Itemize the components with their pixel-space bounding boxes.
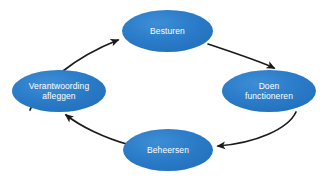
cycle-diagram-canvas [0, 0, 326, 179]
arrow-besturen-to-doen [208, 44, 274, 68]
node-beheersen[interactable] [123, 129, 213, 171]
node-besturen[interactable] [122, 10, 213, 52]
cycle-diagram: Besturen Doen functioneren Beheersen Ver… [0, 0, 326, 179]
node-verantwoording-afleggen[interactable] [12, 70, 106, 112]
node-layer [12, 10, 316, 171]
arrow-beheersen-to-verantwoording [66, 115, 130, 145]
arrow-doen-to-beheersen [218, 112, 296, 146]
node-doen-functioneren[interactable] [222, 70, 316, 112]
